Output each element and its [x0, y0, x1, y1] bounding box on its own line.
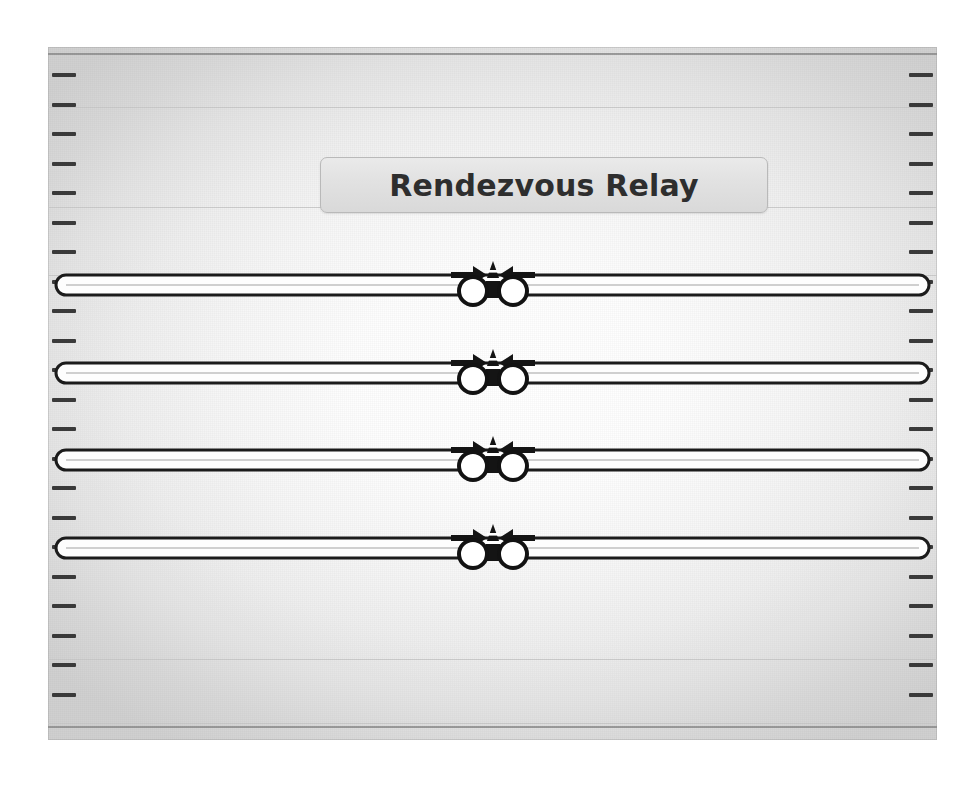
- lane-row-2[interactable]: [48, 353, 937, 389]
- ruler-tick-left-9: [52, 309, 76, 313]
- ruler-tick-right-3: [909, 132, 933, 136]
- ruler-tick-left-2: [52, 103, 76, 107]
- ruler-tick-right-4: [909, 162, 933, 166]
- lane-center-cluster-3[interactable]: [433, 432, 553, 484]
- ruler-ticks-right: [899, 47, 933, 740]
- ruler-tick-left-1: [52, 73, 76, 77]
- runner-right-token[interactable]: [499, 540, 527, 568]
- ruler-tick-right-5: [909, 191, 933, 195]
- ruler-tick-left-21: [52, 663, 76, 667]
- cone-stripe-1: [486, 358, 499, 361]
- cone-stripe-1: [486, 533, 499, 536]
- ruler-tick-right-1: [909, 73, 933, 77]
- ruler-tick-right-12: [909, 398, 933, 402]
- page-title: Rendezvous Relay: [389, 168, 699, 203]
- ruler-tick-right-21: [909, 663, 933, 667]
- ruler-tick-right-16: [909, 516, 933, 520]
- ruler-tick-right-6: [909, 221, 933, 225]
- screen-root: Rendezvous Relay: [0, 0, 979, 785]
- runner-right-token[interactable]: [499, 452, 527, 480]
- playfield-canvas[interactable]: Rendezvous Relay: [48, 47, 937, 740]
- ruler-tick-right-7: [909, 250, 933, 254]
- canvas-top-rule: [48, 53, 937, 55]
- ruler-tick-left-20: [52, 634, 76, 638]
- ruler-tick-right-9: [909, 309, 933, 313]
- ruler-tick-left-5: [52, 191, 76, 195]
- ruler-tick-left-16: [52, 516, 76, 520]
- runner-right-token[interactable]: [499, 365, 527, 393]
- lane-row-1[interactable]: [48, 265, 937, 301]
- cone-stripe-2: [483, 366, 502, 369]
- cone-stripe-2: [483, 278, 502, 281]
- cone-stripe-2: [483, 541, 502, 544]
- ruler-tick-left-6: [52, 221, 76, 225]
- ruler-tick-left-18: [52, 575, 76, 579]
- gridline-5: [48, 723, 937, 724]
- lane-center-cluster-1[interactable]: [433, 257, 553, 309]
- ruler-tick-left-7: [52, 250, 76, 254]
- lane-row-3[interactable]: [48, 440, 937, 476]
- ruler-tick-right-10: [909, 339, 933, 343]
- ruler-tick-left-12: [52, 398, 76, 402]
- runner-left-token[interactable]: [459, 452, 487, 480]
- ruler-tick-right-20: [909, 634, 933, 638]
- canvas-bottom-rule: [48, 726, 937, 728]
- runner-left-token[interactable]: [459, 540, 487, 568]
- ruler-tick-left-4: [52, 162, 76, 166]
- ruler-tick-left-13: [52, 427, 76, 431]
- ruler-tick-left-19: [52, 604, 76, 608]
- lane-center-cluster-4[interactable]: [433, 520, 553, 572]
- gridline-4: [48, 659, 937, 660]
- ruler-tick-right-2: [909, 103, 933, 107]
- cone-stripe-2: [483, 453, 502, 456]
- ruler-ticks-left: [52, 47, 86, 740]
- ruler-tick-right-18: [909, 575, 933, 579]
- runner-left-token[interactable]: [459, 365, 487, 393]
- runner-left-token[interactable]: [459, 277, 487, 305]
- ruler-tick-right-13: [909, 427, 933, 431]
- gridline-1: [48, 107, 937, 108]
- lane-center-cluster-2[interactable]: [433, 345, 553, 397]
- cone-stripe-1: [486, 270, 499, 273]
- runner-right-token[interactable]: [499, 277, 527, 305]
- title-plate: Rendezvous Relay: [320, 157, 768, 213]
- lane-row-4[interactable]: [48, 528, 937, 564]
- ruler-tick-left-3: [52, 132, 76, 136]
- ruler-tick-left-10: [52, 339, 76, 343]
- ruler-tick-right-15: [909, 486, 933, 490]
- cone-stripe-1: [486, 445, 499, 448]
- ruler-tick-right-19: [909, 604, 933, 608]
- ruler-tick-left-15: [52, 486, 76, 490]
- ruler-tick-right-22: [909, 693, 933, 697]
- ruler-tick-left-22: [52, 693, 76, 697]
